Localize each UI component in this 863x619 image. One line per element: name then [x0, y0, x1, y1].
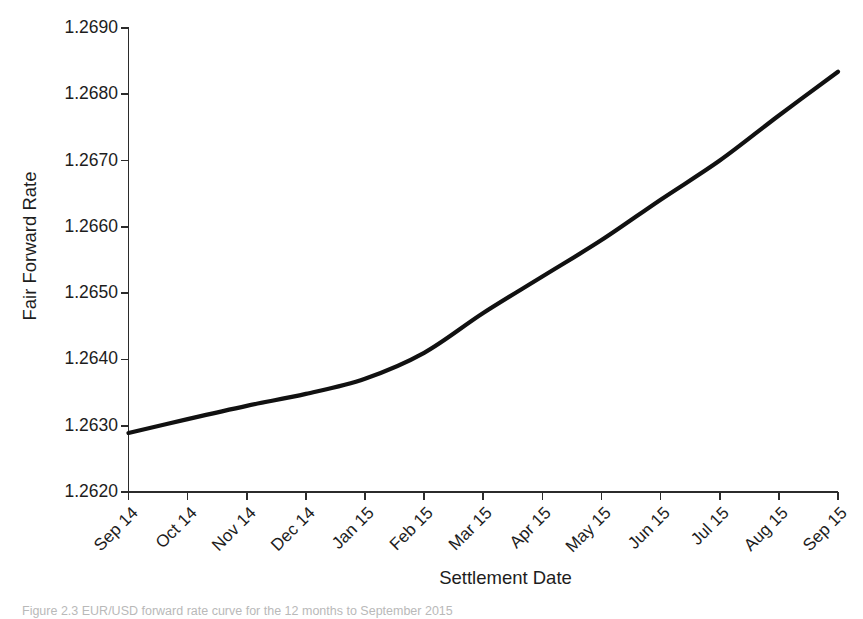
series-line-0	[129, 72, 839, 433]
x-axis-title-text: Settlement Date	[439, 567, 572, 589]
y-axis-title-text: Fair Forward Rate	[19, 171, 41, 320]
figure-caption: Figure 2.3 EUR/USD forward rate curve fo…	[22, 604, 822, 619]
y-axis-tick-label: 1.2670	[64, 152, 118, 170]
x-axis-title: Settlement Date	[0, 567, 863, 589]
y-axis-tick-label: 1.2690	[64, 19, 118, 37]
y-axis-tick-label: 1.2620	[64, 483, 118, 501]
forward-rate-chart-figure: 1.26901.26801.26701.26601.26501.26401.26…	[0, 0, 863, 619]
y-axis-tick-label: 1.2640	[64, 350, 118, 368]
y-axis-tick-label: 1.2630	[64, 417, 118, 435]
y-axis-tick-label: 1.2680	[64, 85, 118, 103]
y-axis-title: Fair Forward Rate	[10, 0, 50, 492]
y-axis-tick-label: 1.2650	[64, 284, 118, 302]
y-axis-tick-label: 1.2660	[64, 218, 118, 236]
